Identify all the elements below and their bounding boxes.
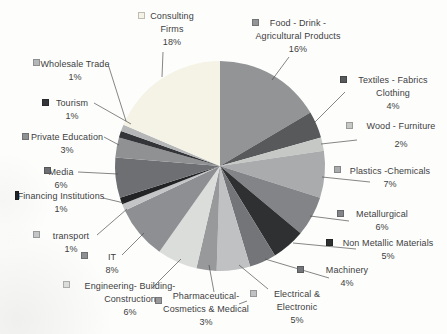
slice-label-text: Clothing <box>358 87 427 100</box>
legend-marker-media <box>44 167 51 174</box>
slice-label-textiles: Textiles - FabricsClothing4% <box>358 74 427 113</box>
slice-label-it: IT8% <box>105 251 118 277</box>
slice-label-food-drink: Food - Drink -Agricultural Products16% <box>255 17 340 56</box>
slice-percent-value: 5% <box>274 314 320 327</box>
slice-label-text: Private Education <box>31 131 103 144</box>
legend-marker-machinery <box>297 266 304 273</box>
slice-percent-value: 6% <box>85 306 176 319</box>
legend-marker-non-metallic <box>326 239 333 246</box>
slice-percent-value: 4% <box>326 277 368 290</box>
slice-percent-value: 18% <box>150 36 194 49</box>
slice-label-text: Metallurgical <box>356 208 408 221</box>
slice-percent-value: 1% <box>18 203 105 216</box>
legend-marker-transport <box>33 231 40 238</box>
slice-percent-value: 2% <box>367 138 436 151</box>
slice-percent-value: 16% <box>255 43 340 56</box>
legend-marker-wholesale <box>33 59 40 66</box>
legend-marker-private-education <box>22 133 29 140</box>
slice-label-engineering: Engineering- Building-Construction6% <box>85 280 176 319</box>
slice-label-text: Wood - Furniture <box>367 120 436 133</box>
slice-percent-value: 3% <box>31 144 103 157</box>
slice-label-text: Electrical & <box>274 288 320 301</box>
legend-marker-electrical <box>250 290 257 297</box>
slice-percent-value: 8% <box>105 264 118 277</box>
slice-label-media: Media6% <box>48 166 73 192</box>
labels-layer: Food - Drink -Agricultural Products16%Te… <box>0 0 447 334</box>
legend-marker-tourism <box>42 99 49 106</box>
slice-label-text: IT <box>105 251 118 264</box>
slice-percent-value: 5% <box>343 250 434 263</box>
legend-marker-consulting <box>138 12 145 19</box>
slice-label-electrical: Electrical &Electronic5% <box>274 288 320 327</box>
pie-chart-figure: Food - Drink -Agricultural Products16%Te… <box>0 0 447 334</box>
slice-label-financing: Financing Institutions1% <box>18 190 105 216</box>
slice-label-text: Pharmaceutical- <box>163 290 249 303</box>
slice-label-text: Construction <box>85 293 176 306</box>
slice-label-text: Electronic <box>274 301 320 314</box>
legend-marker-metallurgical <box>337 210 344 217</box>
slice-label-text: Firms <box>150 23 194 36</box>
slice-label-non-metallic: Non Metallic Materials5% <box>343 237 434 263</box>
slice-label-tourism: Tourism1% <box>56 97 88 123</box>
slice-label-text: Cosmetics & Medical <box>163 303 249 316</box>
slice-label-text: Machinery <box>326 264 368 277</box>
slice-percent-value: 6% <box>356 221 408 234</box>
slice-label-consulting: ConsultingFirms18% <box>150 10 194 49</box>
slice-label-text: Engineering- Building- <box>85 280 176 293</box>
slice-percent-value: 4% <box>358 100 427 113</box>
slice-label-private-education: Private Education3% <box>31 131 103 157</box>
slice-percent-value: 1% <box>40 71 109 84</box>
slice-label-text: Media <box>48 166 73 179</box>
slice-percent-value: 3% <box>163 316 249 329</box>
slice-label-text: Agricultural Products <box>255 30 340 43</box>
slice-percent-value: 1% <box>56 110 88 123</box>
slice-percent-value: 1% <box>53 243 89 256</box>
legend-marker-financing <box>15 191 19 200</box>
slice-label-text: Textiles - Fabrics <box>358 74 427 87</box>
slice-label-transport: transport1% <box>53 230 89 256</box>
slice-label-text: Non Metallic Materials <box>343 237 434 250</box>
slice-label-text: transport <box>53 230 89 243</box>
legend-marker-textiles <box>340 76 347 83</box>
slice-label-text: Consulting <box>150 10 194 23</box>
slice-label-text: Plastics -Chemicals <box>350 165 430 178</box>
legend-marker-wood <box>346 122 353 129</box>
slice-label-machinery: Machinery4% <box>326 264 368 290</box>
legend-marker-food-drink <box>252 19 259 26</box>
slice-label-metallurgical: Metallurgical6% <box>356 208 408 234</box>
slice-label-wholesale: Wholesale Trade1% <box>40 58 109 84</box>
slice-percent-value: 6% <box>48 179 73 192</box>
slice-label-pharmaceutical: Pharmaceutical-Cosmetics & Medical3% <box>163 290 249 329</box>
slice-label-text: Tourism <box>56 97 88 110</box>
slice-percent-value: 7% <box>350 178 430 191</box>
slice-label-text: Food - Drink - <box>255 17 340 30</box>
legend-marker-plastics <box>334 166 341 173</box>
slice-label-plastics: Plastics -Chemicals7% <box>350 165 430 191</box>
slice-label-text: Wholesale Trade <box>40 58 109 71</box>
slice-label-wood: Wood - Furniture2% <box>367 120 436 151</box>
legend-marker-engineering <box>63 281 70 288</box>
